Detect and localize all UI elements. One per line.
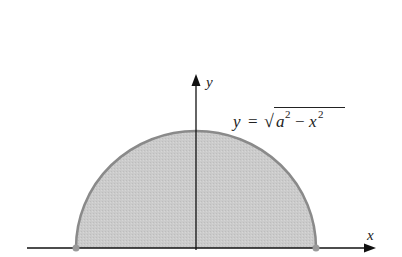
- equation-lhs: y: [231, 112, 241, 131]
- x-axis-arrowhead: [364, 244, 376, 253]
- x-axis-label: x: [366, 227, 374, 243]
- equation-x-exponent: 2: [318, 108, 324, 120]
- equation-label: y = √ a 2 − x 2: [231, 108, 345, 132]
- left-endpoint-dot: [73, 245, 80, 252]
- radical-sign: √: [264, 111, 274, 131]
- right-endpoint-dot: [313, 245, 320, 252]
- y-axis-label: y: [204, 74, 213, 90]
- semicircle-diagram: y x y = √ a 2 − x 2: [0, 0, 402, 257]
- y-axis-arrowhead: [192, 74, 201, 86]
- equation-equals: =: [248, 112, 258, 131]
- equation-x: x: [308, 112, 317, 131]
- equation-a: a: [276, 112, 285, 131]
- equation-minus: −: [295, 112, 305, 131]
- equation-a-exponent: 2: [285, 108, 291, 120]
